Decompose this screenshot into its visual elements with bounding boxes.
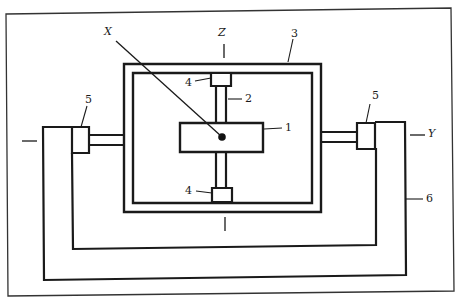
bearing-4-top (211, 73, 231, 86)
part-label-6: 6 (426, 193, 433, 204)
part-label-5-left: 5 (85, 94, 92, 105)
part-label-5-right: 5 (372, 90, 379, 101)
gyroscope-diagram (0, 0, 459, 299)
x-axis-line (116, 41, 221, 136)
part-label-4-top: 4 (185, 77, 192, 88)
part-label-2: 2 (245, 93, 252, 104)
y-axis-label: Y (428, 128, 435, 139)
x-axis-label: X (104, 26, 112, 37)
part-label-3: 3 (291, 28, 298, 39)
part-label-1: 1 (285, 122, 292, 133)
bearing-5-right (357, 123, 375, 149)
bearing-4-bottom (212, 188, 232, 202)
z-axis-label: Z (218, 27, 226, 38)
bearing-5-left (72, 127, 89, 153)
part-label-4-bottom: 4 (185, 185, 192, 196)
